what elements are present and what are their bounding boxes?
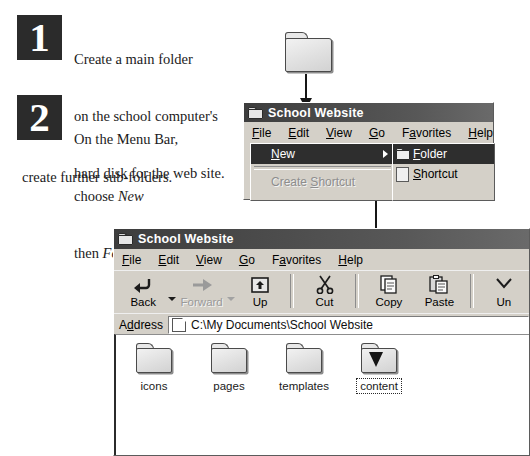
step-number-badge-1: 1	[17, 15, 62, 60]
folder-icon	[286, 343, 322, 373]
menu-separator	[254, 166, 391, 170]
address-value: C:\My Documents\School Website	[191, 318, 373, 332]
step-2-line-4: create further sub-folders.	[22, 168, 172, 187]
menu-item-file[interactable]: File	[252, 124, 280, 142]
toolbar-button-copy[interactable]: Copy	[364, 271, 414, 311]
step-number-badge-2: 2	[17, 95, 62, 140]
address-label: Address	[119, 318, 163, 332]
toolbar-button-cut[interactable]: Cut	[299, 271, 349, 311]
menu-item-file[interactable]: File	[122, 251, 150, 269]
menu-item-edit[interactable]: Edit	[288, 124, 318, 142]
toolbar-label-paste: Paste	[425, 296, 454, 308]
copy-pages-icon	[379, 275, 399, 295]
folder-icon	[285, 32, 332, 72]
menu-demo-window: School Website File Edit View Go Favorit…	[243, 102, 494, 200]
step-2-line-1: On the Menu Bar,	[74, 130, 178, 149]
list-item[interactable]: pages	[197, 343, 261, 393]
toolbar-label-copy: Copy	[375, 296, 402, 308]
list-item[interactable]: templates	[272, 343, 336, 393]
file-label: templates	[276, 379, 332, 393]
step-2-line-2-pre: choose	[74, 188, 118, 204]
toolbar-label-up: Up	[253, 296, 268, 308]
back-arrow-icon	[132, 275, 154, 295]
menu-item-view[interactable]: View	[196, 251, 231, 269]
dropdown-item-new[interactable]: New	[251, 144, 394, 164]
toolbar-label-back: Back	[130, 296, 156, 308]
file-label: icons	[138, 379, 171, 393]
menu-item-view[interactable]: View	[326, 124, 361, 142]
step-2-line-2: choose New	[74, 187, 178, 206]
undo-icon	[494, 275, 514, 295]
forward-dropdown-caret-icon	[227, 297, 235, 301]
step-1-line-1: Create a main folder	[74, 50, 225, 69]
menu-item-favorites[interactable]: Favorites	[272, 251, 330, 269]
menu-item-go[interactable]: Go	[239, 251, 264, 269]
toolbar-separator	[470, 274, 474, 308]
explorer-titlebar: School Website	[114, 229, 529, 249]
file-list-area[interactable]: icons pages templates content	[114, 334, 529, 455]
menu-window-menubar: File Edit View Go Favorites Help	[244, 122, 493, 143]
step-2-emphasis-new: New	[118, 188, 144, 204]
new-submenu: Folder Shortcut	[392, 143, 495, 201]
toolbar-button-paste[interactable]: Paste	[414, 271, 464, 311]
forward-arrow-icon	[191, 275, 213, 295]
explorer-window: School Website File Edit View Go Favorit…	[113, 228, 530, 456]
menu-window-titlebar: School Website	[244, 103, 493, 122]
menu-item-edit[interactable]: Edit	[158, 251, 188, 269]
toolbar-button-up[interactable]: Up	[235, 271, 285, 311]
window-folder-icon	[248, 107, 263, 119]
toolbar-separator	[355, 274, 359, 308]
list-item[interactable]: icons	[122, 343, 186, 393]
folder-icon	[211, 343, 247, 373]
toolbar-button-forward: Forward	[176, 271, 226, 311]
menu-item-help[interactable]: Help	[468, 124, 502, 142]
explorer-menubar: File Edit View Go Favorites Help	[114, 249, 529, 270]
toolbar-button-undo[interactable]: Un	[479, 271, 529, 311]
back-dropdown-caret-icon[interactable]	[168, 297, 176, 301]
address-input[interactable]: C:\My Documents\School Website	[168, 316, 529, 334]
toolbar-button-back[interactable]: Back	[118, 271, 168, 311]
toolbar-separator	[290, 274, 294, 308]
up-folder-icon	[250, 275, 270, 295]
file-label: pages	[210, 379, 247, 393]
shortcut-document-icon	[396, 167, 409, 182]
file-label: content	[357, 379, 401, 393]
submenu-item-shortcut[interactable]: Shortcut	[393, 164, 494, 184]
menu-item-favorites[interactable]: Favorites	[402, 124, 460, 142]
submenu-item-folder[interactable]: Folder	[393, 144, 494, 164]
toolbar-label-forward: Forward	[181, 296, 223, 308]
toolbar-label-undo: Un	[496, 296, 511, 308]
folder-icon	[396, 148, 410, 160]
menu-item-help[interactable]: Help	[338, 251, 372, 269]
address-bar: Address C:\My Documents\School Website	[114, 313, 529, 336]
menu-item-go[interactable]: Go	[369, 124, 394, 142]
clipboard-paste-icon	[429, 275, 449, 295]
folder-body	[285, 38, 332, 72]
file-dropdown-menu: New Create Shortcut	[250, 143, 395, 201]
list-item[interactable]: content	[347, 343, 411, 393]
toolbar-label-cut: Cut	[316, 296, 334, 308]
arrow-down-to-content-head	[369, 352, 383, 367]
folder-small-icon	[172, 318, 186, 332]
explorer-toolbar: Back Forward Up Cut	[114, 270, 529, 313]
window-folder-icon	[118, 233, 133, 245]
explorer-window-title: School Website	[138, 232, 234, 246]
dropdown-item-create-shortcut: Create Shortcut	[251, 172, 394, 192]
folder-icon	[136, 343, 172, 373]
step-2-line-3-pre: then	[74, 245, 103, 261]
menu-window-title: School Website	[268, 106, 364, 120]
figure-canvas: 1 Create a main folder on the school com…	[0, 0, 530, 456]
scissors-icon	[315, 275, 335, 295]
chevron-right-icon	[383, 150, 388, 158]
